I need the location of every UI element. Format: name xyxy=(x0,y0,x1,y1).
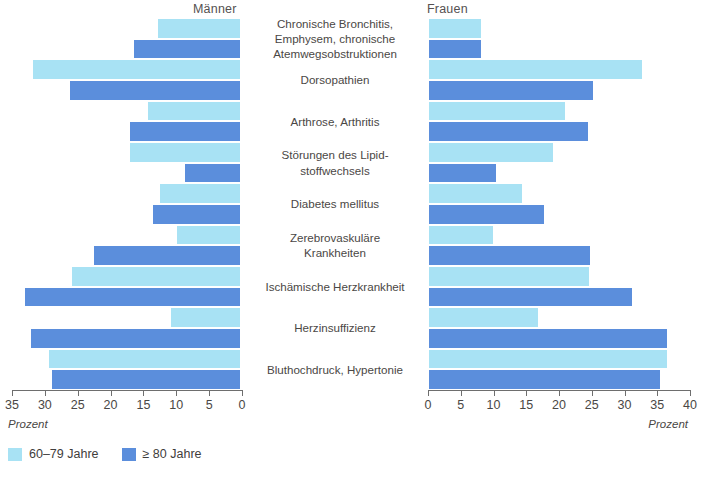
bar-maenner-60-79 xyxy=(72,267,240,286)
axis-tick xyxy=(12,390,13,396)
bar-slot xyxy=(429,328,687,349)
axis-tick-label: 25 xyxy=(63,398,93,412)
row-side-frauen xyxy=(429,349,687,390)
chart-legend: 60–79 Jahre≥ 80 Jahre xyxy=(8,447,216,461)
category-label-text: Chronische Bronchitis,Emphysem, chronisc… xyxy=(273,16,397,62)
legend-swatch-icon xyxy=(8,448,22,461)
chart-row: Herzinsuffizienz xyxy=(0,307,696,348)
axis-tick-label: 20 xyxy=(96,398,126,412)
axis-tick xyxy=(428,390,429,396)
bar-frauen-80-plus xyxy=(429,329,667,348)
axis-tick xyxy=(494,390,495,396)
bar-maenner-80-plus xyxy=(153,205,240,224)
bar-slot xyxy=(12,183,240,204)
row-side-frauen xyxy=(429,183,687,224)
bar-frauen-60-79 xyxy=(429,19,481,38)
category-label: Dorsopathien xyxy=(244,59,426,100)
row-side-maenner xyxy=(12,18,240,59)
axis-tick xyxy=(45,390,46,396)
row-side-frauen xyxy=(429,225,687,266)
axis-unit-left: Prozent xyxy=(8,418,48,430)
category-label-text: Bluthochdruck, Hypertonie xyxy=(267,362,403,377)
bar-slot xyxy=(12,225,240,246)
bar-slot xyxy=(12,80,240,101)
axis-tick xyxy=(143,390,144,396)
row-side-frauen xyxy=(429,142,687,183)
row-side-frauen xyxy=(429,59,687,100)
bar-frauen-60-79 xyxy=(429,143,553,162)
bar-maenner-60-79 xyxy=(130,143,240,162)
category-label: Störungen des Lipid-stoffwechsels xyxy=(244,142,426,183)
bar-slot xyxy=(429,163,687,184)
axis-left-maenner: 35302520151050 xyxy=(12,390,242,391)
axis-tick xyxy=(78,390,79,396)
axis-tick xyxy=(625,390,626,396)
bar-maenner-60-79 xyxy=(33,60,240,79)
axis-tick xyxy=(559,390,560,396)
bar-slot xyxy=(12,204,240,225)
bar-slot xyxy=(429,101,687,122)
axis-tick-label: 5 xyxy=(446,398,476,412)
bar-slot xyxy=(12,328,240,349)
category-label-text: Diabetes mellitus xyxy=(291,196,379,211)
axis-tick-label: 20 xyxy=(544,398,574,412)
category-label: ZerebrovaskuläreKrankheiten xyxy=(244,225,426,266)
bar-maenner-80-plus xyxy=(31,329,240,348)
row-side-frauen xyxy=(429,266,687,307)
bar-slot xyxy=(12,245,240,266)
bar-slot xyxy=(12,163,240,184)
chart-row: Bluthochdruck, Hypertonie xyxy=(0,349,696,390)
bar-slot xyxy=(12,266,240,287)
bar-slot xyxy=(429,121,687,142)
axis-tick-label: 10 xyxy=(161,398,191,412)
category-label-text: Dorsopathien xyxy=(301,72,370,87)
bar-slot xyxy=(429,142,687,163)
axis-tick xyxy=(209,390,210,396)
axis-tick-label: 30 xyxy=(610,398,640,412)
category-label-text: Störungen des Lipid-stoffwechsels xyxy=(282,147,389,178)
category-label: Ischämische Herzkrankheit xyxy=(244,266,426,307)
row-side-maenner xyxy=(12,59,240,100)
bar-frauen-80-plus xyxy=(429,81,593,100)
legend-swatch-icon xyxy=(122,448,136,461)
bar-slot xyxy=(12,39,240,60)
category-label-text: Herzinsuffizienz xyxy=(294,320,376,335)
bar-maenner-80-plus xyxy=(52,370,240,389)
bar-slot xyxy=(429,287,687,308)
legend-label: ≥ 80 Jahre xyxy=(143,447,202,461)
bar-frauen-60-79 xyxy=(429,226,493,245)
axis-tick-label: 0 xyxy=(413,398,443,412)
axis-tick xyxy=(690,390,691,396)
axis-tick xyxy=(242,390,243,396)
row-side-maenner xyxy=(12,183,240,224)
row-side-maenner xyxy=(12,101,240,142)
bar-frauen-60-79 xyxy=(429,102,565,121)
bar-frauen-60-79 xyxy=(429,308,538,327)
chart-row: ZerebrovaskuläreKrankheiten xyxy=(0,225,696,266)
bar-maenner-60-79 xyxy=(171,308,240,327)
chart-row: Dorsopathien xyxy=(0,59,696,100)
bar-frauen-80-plus xyxy=(429,205,544,224)
bar-slot xyxy=(429,39,687,60)
legend-item: ≥ 80 Jahre xyxy=(122,447,202,461)
bar-maenner-80-plus xyxy=(25,288,240,307)
bar-maenner-60-79 xyxy=(158,19,240,38)
bar-maenner-60-79 xyxy=(148,102,240,121)
axis-tick-label: 35 xyxy=(0,398,27,412)
axis-tick xyxy=(176,390,177,396)
category-label-text: ZerebrovaskuläreKrankheiten xyxy=(290,230,380,261)
chart-row: Ischämische Herzkrankheit xyxy=(0,266,696,307)
bar-slot xyxy=(12,287,240,308)
bar-slot xyxy=(12,307,240,328)
bar-slot xyxy=(429,59,687,80)
bar-slot xyxy=(12,349,240,370)
bar-frauen-80-plus xyxy=(429,288,632,307)
axis-tick xyxy=(111,390,112,396)
category-label: Herzinsuffizienz xyxy=(244,307,426,348)
bar-maenner-80-plus xyxy=(94,246,240,265)
chart-row: Chronische Bronchitis,Emphysem, chronisc… xyxy=(0,18,696,59)
bar-frauen-80-plus xyxy=(429,370,660,389)
bar-slot xyxy=(12,59,240,80)
bar-slot xyxy=(429,349,687,370)
